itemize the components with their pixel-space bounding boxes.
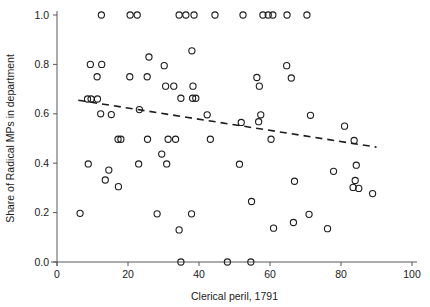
data-point	[207, 136, 213, 142]
data-point	[176, 227, 182, 233]
data-point	[212, 12, 218, 18]
data-point	[284, 12, 290, 18]
scatter-plot-figure: 0.00.20.40.60.81.0 020406080100 Clerical…	[0, 0, 430, 307]
data-point	[238, 119, 244, 125]
data-point	[330, 168, 336, 174]
x-axis-ticks: 020406080100	[54, 262, 421, 280]
data-point	[94, 74, 100, 80]
x-tick-label: 40	[193, 268, 205, 280]
x-tick-label: 80	[335, 268, 347, 280]
data-point	[324, 226, 330, 232]
data-point	[190, 83, 196, 89]
data-point	[306, 211, 312, 217]
data-point	[171, 83, 177, 89]
y-axis-ticks: 0.00.20.40.60.81.0	[34, 9, 57, 268]
data-point	[191, 12, 197, 18]
y-tick-label: 0.8	[34, 58, 49, 70]
y-axis-title: Share of Radical MPs in department	[4, 54, 16, 223]
data-point	[304, 12, 310, 18]
data-point	[258, 112, 264, 118]
data-point	[94, 96, 100, 102]
data-point	[163, 83, 169, 89]
data-point	[352, 177, 358, 183]
trend-line	[78, 100, 376, 147]
data-point	[102, 177, 108, 183]
y-tick-label: 0.6	[34, 107, 49, 119]
x-tick-label: 100	[403, 268, 421, 280]
x-tick-label: 60	[264, 268, 276, 280]
data-point	[144, 136, 150, 142]
data-point	[164, 161, 170, 167]
y-tick-label: 1.0	[34, 9, 49, 21]
data-point	[134, 12, 140, 18]
data-point	[284, 63, 290, 69]
data-point	[127, 12, 133, 18]
data-point	[268, 136, 274, 142]
y-tick-label: 0.2	[34, 206, 49, 218]
data-point	[369, 190, 375, 196]
data-point	[98, 111, 104, 117]
x-tick-label: 20	[122, 268, 134, 280]
data-point	[353, 162, 359, 168]
data-point	[341, 123, 347, 129]
data-point	[154, 211, 160, 217]
data-point	[106, 167, 112, 173]
data-point	[108, 111, 114, 117]
data-point	[248, 198, 254, 204]
x-axis-title: Clerical peril, 1791	[191, 290, 278, 302]
data-points-group	[77, 12, 376, 265]
data-point	[291, 178, 297, 184]
data-point	[183, 12, 189, 18]
chart-canvas: 0.00.20.40.60.81.0 020406080100 Clerical…	[0, 0, 430, 307]
data-point	[254, 74, 260, 80]
data-point	[240, 12, 246, 18]
data-point	[256, 83, 262, 89]
data-point	[204, 112, 210, 118]
data-point	[236, 161, 242, 167]
data-point	[98, 12, 104, 18]
data-point	[270, 12, 276, 18]
data-point	[115, 184, 121, 190]
data-point	[189, 48, 195, 54]
data-point	[144, 74, 150, 80]
data-point	[176, 12, 182, 18]
data-point	[270, 225, 276, 231]
x-tick-label: 0	[54, 268, 60, 280]
data-point	[146, 54, 152, 60]
data-point	[256, 119, 262, 125]
data-point	[307, 112, 313, 118]
data-point	[288, 75, 294, 81]
data-point	[99, 61, 105, 67]
data-point	[178, 95, 184, 101]
y-tick-label: 0.4	[34, 157, 49, 169]
data-point	[159, 151, 165, 157]
data-point	[161, 63, 167, 69]
data-point	[188, 211, 194, 217]
data-point	[87, 61, 93, 67]
data-point	[127, 74, 133, 80]
data-point	[165, 136, 171, 142]
data-point	[77, 210, 83, 216]
data-point	[290, 219, 296, 225]
data-point	[136, 161, 142, 167]
data-point	[172, 136, 178, 142]
data-point	[85, 161, 91, 167]
y-tick-label: 0.0	[34, 256, 49, 268]
